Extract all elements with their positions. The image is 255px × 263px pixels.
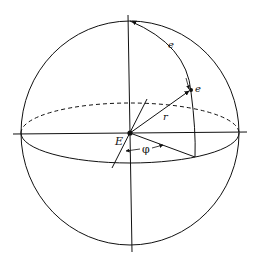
radius-vector: [130, 91, 189, 133]
star-point: [189, 88, 193, 92]
sphere-diagram: E r e e φ: [0, 0, 255, 263]
label-r: r: [163, 111, 169, 122]
label-arc-e: e: [168, 39, 174, 50]
phi-arrow-left: [126, 149, 140, 151]
label-E: E: [114, 135, 123, 148]
center-point: [127, 130, 132, 135]
phi-arrow-right: [152, 145, 163, 148]
label-phi: φ: [142, 143, 150, 156]
label-point-e: e: [195, 83, 201, 94]
